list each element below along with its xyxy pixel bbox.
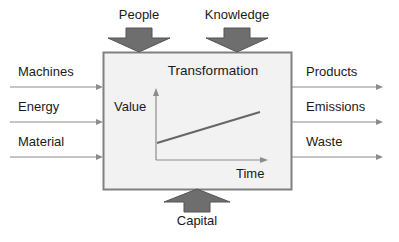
- output-arrow-products: [292, 84, 383, 90]
- top-input-label-people: People: [99, 8, 179, 21]
- input-label-machines: Machines: [18, 65, 74, 78]
- diagram-graphics: [0, 0, 399, 242]
- bottom-input-label-capital: Capital: [157, 214, 237, 227]
- output-arrow-waste: [292, 154, 383, 160]
- process-box-label: Transformation: [148, 64, 278, 78]
- input-label-energy: Energy: [18, 100, 59, 113]
- input-arrow-machines: [10, 84, 103, 90]
- output-label-waste: Waste: [306, 135, 342, 148]
- chart-x-axis-label: Time: [236, 167, 264, 180]
- block-arrow-down-icon-knowledge: [206, 28, 268, 52]
- output-label-products: Products: [306, 65, 357, 78]
- input-arrow-material: [10, 154, 103, 160]
- chart-y-axis-label: Value: [114, 100, 146, 113]
- input-arrow-energy: [10, 119, 103, 125]
- output-arrow-emissions: [292, 119, 383, 125]
- block-arrow-up-icon-capital: [164, 189, 230, 212]
- input-label-material: Material: [18, 135, 64, 148]
- diagram-canvas: People Knowledge Capital Machines Energy…: [0, 0, 399, 242]
- output-label-emissions: Emissions: [306, 100, 365, 113]
- top-input-label-knowledge: Knowledge: [191, 8, 283, 21]
- block-arrow-down-icon-people: [108, 28, 170, 52]
